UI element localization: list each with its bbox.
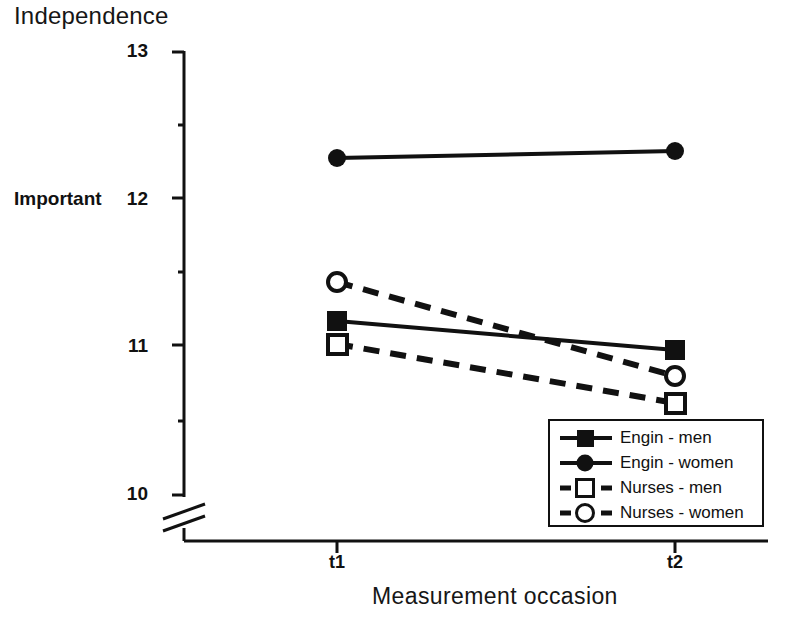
legend-key-engin-men	[558, 427, 614, 449]
legend-item-engin-women: Engin - women	[550, 450, 762, 475]
series-line-nurses-men	[337, 344, 675, 403]
chart-page: Independence 13 12 11 10 Important t1 t2…	[0, 0, 796, 626]
series-line-engin-women	[337, 151, 675, 158]
legend-item-nurses-women: Nurses - women	[550, 500, 762, 525]
legend-key-nurses-men	[558, 477, 614, 499]
plot-canvas	[0, 0, 796, 626]
marker-engin-men-t2	[665, 340, 685, 360]
marker-engin-men-t1	[327, 311, 347, 331]
legend-label-nurses-men: Nurses - men	[614, 478, 722, 498]
marker-nurses-women-t1	[328, 273, 346, 291]
legend: Engin - men Engin - women Nurses - men	[548, 419, 764, 527]
marker-engin-women-t2	[666, 142, 684, 160]
series-line-nurses-women	[337, 282, 675, 376]
marker-nurses-men-t1	[328, 335, 347, 354]
legend-key-engin-women	[558, 452, 614, 474]
legend-label-engin-men: Engin - men	[614, 428, 712, 448]
marker-nurses-women-t2	[666, 367, 684, 385]
series-line-engin-men	[337, 321, 675, 350]
marker-engin-women-t1	[328, 149, 346, 167]
legend-label-engin-women: Engin - women	[614, 453, 733, 473]
legend-item-nurses-men: Nurses - men	[550, 475, 762, 500]
legend-key-nurses-women	[558, 502, 614, 524]
marker-nurses-men-t2	[666, 394, 685, 413]
legend-item-engin-men: Engin - men	[550, 425, 762, 450]
legend-label-nurses-women: Nurses - women	[614, 503, 744, 523]
